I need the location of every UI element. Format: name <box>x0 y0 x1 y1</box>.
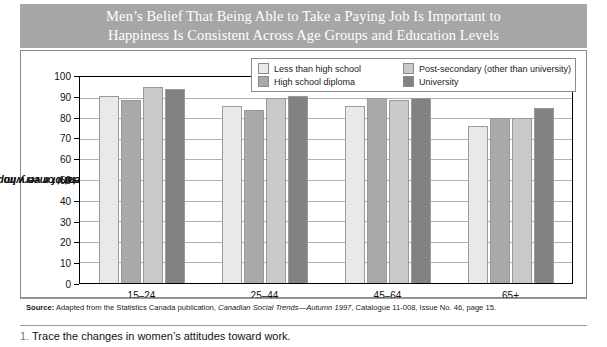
chart-title-banner: Men’s Belief That Being Able to Take a P… <box>20 4 587 48</box>
legend-label: University <box>419 77 459 87</box>
legend-swatch-icon <box>403 63 414 74</box>
legend-swatch-icon <box>258 76 269 87</box>
legend-label: High school diploma <box>274 77 355 87</box>
chart-frame: Less than high school Post-secondary (ot… <box>20 50 587 298</box>
bar <box>367 98 387 283</box>
legend-item-high-school-diploma: High school diploma <box>258 75 399 88</box>
y-axis-tick-label: 50 <box>60 175 71 186</box>
bar <box>534 108 554 283</box>
y-axis-tick <box>74 76 79 77</box>
bar <box>222 106 242 283</box>
y-axis-tick <box>74 180 79 181</box>
legend-item-university: University <box>403 75 571 88</box>
bar <box>288 96 308 283</box>
figure-page: Men’s Belief That Being Able to Take a P… <box>0 0 607 347</box>
legend-swatch-icon <box>403 76 414 87</box>
question-number: 1. <box>20 330 29 342</box>
x-axis-tick-label: 25–44 <box>203 290 326 301</box>
chart-title-line-2: Happiness Is Consistent Across Age Group… <box>108 26 499 45</box>
source-note: Source: Adapted from the Statistics Cana… <box>26 303 586 312</box>
bar <box>266 98 286 283</box>
x-axis-tick-label: 65+ <box>449 290 572 301</box>
y-axis-tick <box>74 242 79 243</box>
y-axis-tick-label: 100 <box>54 71 71 82</box>
bar <box>244 110 264 283</box>
y-axis-tick <box>74 97 79 98</box>
plot-area: 15–2425–4445–6465+ 010203040506070809010… <box>79 76 573 284</box>
y-axis-tick-label: 30 <box>60 216 71 227</box>
y-axis-tick-label: 10 <box>60 258 71 269</box>
question-text: Trace the changes in women’s attitudes t… <box>32 330 291 342</box>
source-text-after: , Catalogue 11-008, Issue No. 46, page 1… <box>351 303 496 312</box>
y-axis-tick <box>74 201 79 202</box>
bar-group: 15–24 <box>80 77 203 283</box>
bar <box>165 89 185 283</box>
y-axis-tick-label: 40 <box>60 195 71 206</box>
y-axis-tick <box>74 284 79 285</box>
chart-title-line-1: Men’s Belief That Being Able to Take a P… <box>106 7 501 26</box>
x-axis-tick-label: 45–64 <box>326 290 449 301</box>
figure-bottom-divider <box>20 325 587 326</box>
plot-box: 15–2425–4445–6465+ <box>79 76 573 284</box>
bar <box>121 100 141 283</box>
bar <box>490 118 510 283</box>
y-axis-tick <box>74 138 79 139</box>
y-axis-tick <box>74 222 79 223</box>
source-text-before: Adapted from the Statistics Canada publi… <box>54 303 218 312</box>
bar <box>99 96 119 283</box>
y-axis-tick-label: 80 <box>60 112 71 123</box>
bar <box>345 106 365 283</box>
bar <box>411 98 431 283</box>
chart-legend: Less than high school Post-secondary (ot… <box>251 58 576 92</box>
y-axis-tick-label: 60 <box>60 154 71 165</box>
source-divider <box>20 298 587 299</box>
bar <box>512 118 532 283</box>
y-axis-tick-label: 90 <box>60 91 71 102</box>
bar-group: 65+ <box>449 77 572 283</box>
y-axis-tick-label: 20 <box>60 237 71 248</box>
y-axis-tick <box>74 263 79 264</box>
y-axis-title: Percent of men who stated important or v… <box>29 76 43 284</box>
bar-group: 45–64 <box>326 77 449 283</box>
legend-label: Post-secondary (other than university) <box>419 64 571 74</box>
y-axis-tick <box>74 118 79 119</box>
bar-groups: 15–2425–4445–6465+ <box>80 77 572 283</box>
bar <box>143 87 163 283</box>
legend-label: Less than high school <box>274 64 361 74</box>
question-item: 1. Trace the changes in women’s attitude… <box>20 330 291 342</box>
source-publication: Canadian Social Trends—Autumn 1997 <box>218 303 351 312</box>
legend-swatch-icon <box>258 63 269 74</box>
source-label: Source: <box>26 303 54 312</box>
y-axis-tick-label: 70 <box>60 133 71 144</box>
x-axis-tick-label: 15–24 <box>80 290 203 301</box>
legend-item-less-than-high-school: Less than high school <box>258 62 399 75</box>
bar <box>389 100 409 283</box>
y-axis-tick <box>74 159 79 160</box>
bar-group: 25–44 <box>203 77 326 283</box>
legend-item-post-secondary: Post-secondary (other than university) <box>403 62 571 75</box>
y-axis-tick-label: 0 <box>65 279 71 290</box>
bar <box>468 126 488 283</box>
